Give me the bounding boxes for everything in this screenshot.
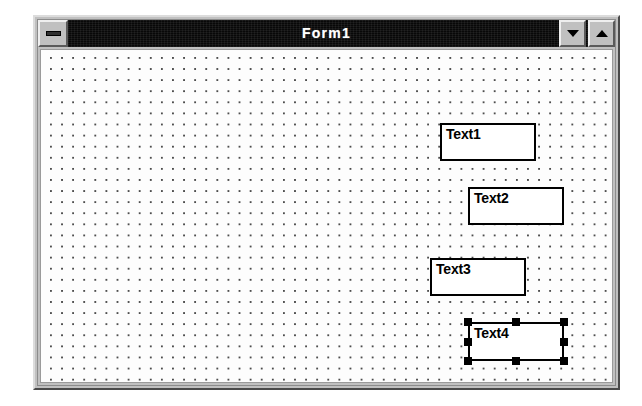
form-design-surface[interactable]: Text1 Text2 Text3 Text4 — [40, 49, 613, 383]
resize-handle-middle-left[interactable] — [464, 338, 472, 346]
resize-handle-top-right[interactable] — [560, 318, 568, 326]
resize-handle-top-left[interactable] — [464, 318, 472, 326]
triangle-down-icon — [567, 30, 579, 37]
resize-handle-bottom-center[interactable] — [512, 357, 520, 365]
textbox-text1-caption: Text1 — [446, 126, 481, 142]
screen: Form1 Text1 Text2 Text3 Text4 — [0, 0, 642, 406]
textbox-text2-caption: Text2 — [474, 190, 509, 206]
textbox-text2[interactable]: Text2 — [468, 187, 564, 225]
textbox-text4-caption: Text4 — [474, 325, 509, 341]
textbox-text3-caption: Text3 — [436, 261, 471, 277]
resize-handle-top-center[interactable] — [512, 318, 520, 326]
textbox-text1[interactable]: Text1 — [440, 123, 536, 161]
triangle-up-icon — [596, 30, 608, 37]
window-menu-bar-icon — [46, 31, 61, 36]
resize-handle-bottom-left[interactable] — [464, 357, 472, 365]
window-title: Form1 — [38, 20, 615, 47]
system-menu-button[interactable] — [38, 20, 68, 47]
minimize-button[interactable] — [559, 20, 586, 47]
resize-handle-bottom-right[interactable] — [560, 357, 568, 365]
form-designer-window: Form1 Text1 Text2 Text3 Text4 — [33, 15, 620, 390]
maximize-button[interactable] — [588, 20, 615, 47]
textbox-text3[interactable]: Text3 — [430, 258, 526, 296]
title-bar[interactable]: Form1 — [38, 20, 615, 47]
resize-handle-middle-right[interactable] — [560, 338, 568, 346]
textbox-text4[interactable]: Text4 — [468, 322, 564, 361]
